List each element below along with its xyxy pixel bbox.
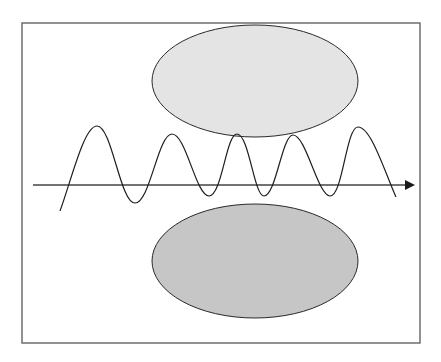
diagram-canvas [0,0,441,362]
bottom-ellipse [152,204,358,318]
top-ellipse [152,25,358,137]
